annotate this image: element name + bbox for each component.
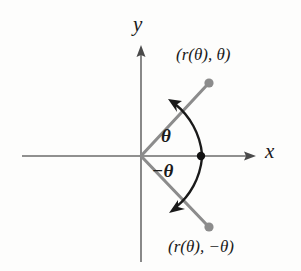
lower-point-label: (r(θ), −θ): [168, 238, 234, 255]
lower-angle-arc: [176, 158, 202, 207]
lower-ray-endpoint-dot: [204, 222, 213, 231]
figure-canvas: [0, 0, 301, 271]
negative-angle-label: −θ: [152, 161, 173, 180]
upper-ray: [141, 85, 207, 156]
upper-point-label: (r(θ), θ): [176, 46, 230, 63]
upper-arc-arrowhead: [168, 99, 182, 112]
x-axis-label: x: [265, 141, 274, 162]
y-axis-label: y: [133, 14, 142, 35]
x-axis-crossing-dot: [197, 152, 205, 160]
positive-angle-label: θ: [161, 126, 171, 145]
upper-ray-endpoint-dot: [204, 78, 213, 87]
upper-angle-arc: [175, 104, 202, 154]
lower-ray: [141, 156, 207, 225]
polar-diagram-figure: y x (r(θ), θ) (r(θ), −θ) θ −θ: [0, 0, 301, 271]
